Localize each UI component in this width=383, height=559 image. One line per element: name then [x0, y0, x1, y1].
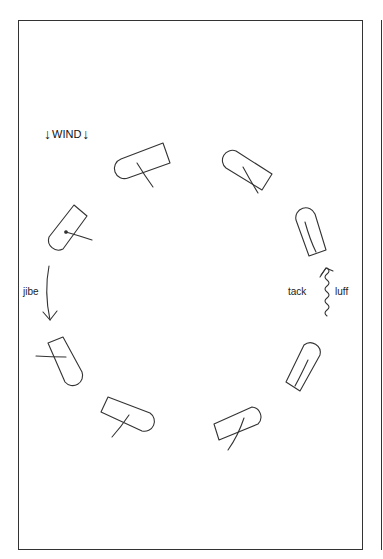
boat-4-icon	[49, 205, 92, 250]
sailing-maneuvers-diagram	[0, 0, 383, 559]
luff-arrow-icon	[320, 268, 333, 316]
boat-3-icon	[296, 208, 326, 256]
jibe-label: jibe	[23, 286, 39, 297]
boat-8-icon	[286, 343, 320, 391]
tack-label: tack	[288, 286, 306, 297]
boat-6-icon	[101, 397, 154, 437]
boat-2-icon	[222, 150, 272, 193]
boat-1-icon	[114, 143, 170, 187]
luff-label: luff	[335, 286, 348, 297]
jibe-arrow-icon	[43, 266, 57, 320]
boat-7-icon	[214, 407, 261, 450]
boat-5-icon	[36, 337, 83, 386]
